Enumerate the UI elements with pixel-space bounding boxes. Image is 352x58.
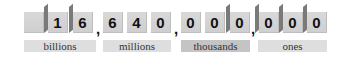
digit-box-ones: 0 — [307, 12, 327, 33]
comma-separator: , — [174, 20, 178, 37]
digit-box-hundreds: 0 — [259, 12, 279, 33]
period-label-thousands: thousands — [181, 40, 250, 52]
comma-separator: , — [96, 20, 100, 37]
digit-box-hundred-billions — [24, 12, 44, 33]
digit-box-billions: 6 — [73, 12, 93, 33]
period-label-billions: billions — [24, 40, 96, 52]
digit-box-ten-billions: 1 — [48, 12, 68, 33]
digit-box-thousands: 0 — [230, 12, 250, 33]
digit-box-hundred-thousands: 0 — [181, 12, 201, 33]
digit-box-millions: 0 — [151, 12, 171, 33]
digit-box-ten-millions: 4 — [127, 12, 147, 33]
period-label-millions: millions — [103, 40, 171, 52]
digit-box-tens: 0 — [283, 12, 303, 33]
period-label-ones: ones — [258, 40, 327, 52]
digit-box-ten-thousands: 0 — [205, 12, 225, 33]
digit-box-hundred-millions: 6 — [103, 12, 123, 33]
